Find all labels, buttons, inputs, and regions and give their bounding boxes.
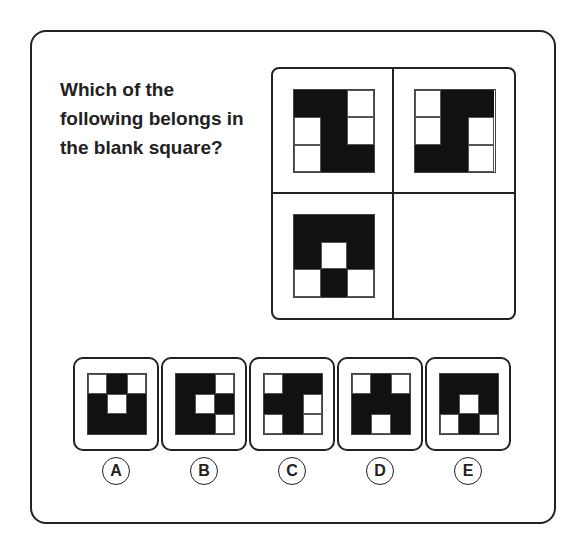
option-d-label[interactable]: D xyxy=(366,457,394,485)
empty-square xyxy=(264,374,283,394)
empty-square xyxy=(107,394,126,414)
filled-square xyxy=(441,145,468,172)
option-b-label[interactable]: B xyxy=(190,457,218,485)
empty-square xyxy=(347,90,374,117)
pattern xyxy=(414,89,496,173)
empty-square xyxy=(303,394,322,414)
pattern xyxy=(87,373,147,435)
filled-square xyxy=(283,394,302,414)
empty-square xyxy=(215,374,234,394)
filled-square xyxy=(294,90,321,117)
option-e[interactable] xyxy=(425,357,511,451)
empty-square xyxy=(440,414,459,434)
empty-square xyxy=(294,117,321,144)
grid-cell-blank xyxy=(394,194,515,319)
empty-square xyxy=(215,414,234,434)
empty-square xyxy=(347,117,374,144)
empty-square xyxy=(294,269,321,296)
filled-square xyxy=(440,394,459,414)
empty-square xyxy=(391,374,410,394)
filled-square xyxy=(176,414,195,434)
option-d[interactable] xyxy=(337,357,423,451)
option-c-label[interactable]: C xyxy=(278,457,306,485)
empty-square xyxy=(468,145,495,172)
empty-square xyxy=(415,90,442,117)
filled-square xyxy=(479,394,498,414)
empty-square xyxy=(371,414,390,434)
filled-square xyxy=(283,414,302,434)
filled-square xyxy=(303,374,322,394)
filled-square xyxy=(321,215,348,242)
filled-square xyxy=(347,215,374,242)
filled-square xyxy=(459,374,478,394)
filled-square xyxy=(347,242,374,269)
filled-square xyxy=(321,90,348,117)
filled-square xyxy=(176,394,195,414)
filled-square xyxy=(107,414,126,434)
filled-square xyxy=(347,145,374,172)
filled-square xyxy=(127,414,146,434)
empty-square xyxy=(415,117,442,144)
filled-square xyxy=(321,269,348,296)
filled-square xyxy=(459,414,478,434)
empty-square xyxy=(321,242,348,269)
filled-square xyxy=(264,394,283,414)
option-b[interactable] xyxy=(161,357,247,451)
filled-square xyxy=(441,117,468,144)
puzzle-grid xyxy=(271,67,516,320)
filled-square xyxy=(294,242,321,269)
filled-square xyxy=(440,374,459,394)
filled-square xyxy=(195,374,214,394)
filled-square xyxy=(88,394,107,414)
empty-square xyxy=(294,145,321,172)
filled-square xyxy=(321,117,348,144)
empty-square xyxy=(88,374,107,394)
grid-cell-bottom-left xyxy=(273,194,394,319)
filled-square xyxy=(176,374,195,394)
empty-square xyxy=(347,269,374,296)
filled-square xyxy=(371,374,390,394)
filled-square xyxy=(479,374,498,394)
filled-square xyxy=(352,394,371,414)
pattern xyxy=(263,373,323,435)
empty-square xyxy=(303,414,322,434)
pattern xyxy=(293,89,375,173)
filled-square xyxy=(294,215,321,242)
option-e-label[interactable]: E xyxy=(454,457,482,485)
filled-square xyxy=(468,90,495,117)
option-a[interactable] xyxy=(73,357,159,451)
pattern xyxy=(293,214,375,298)
option-a-label[interactable]: A xyxy=(102,457,130,485)
filled-square xyxy=(195,414,214,434)
option-c[interactable] xyxy=(249,357,335,451)
filled-square xyxy=(283,374,302,394)
empty-square xyxy=(352,374,371,394)
empty-square xyxy=(127,374,146,394)
grid-cell-top-left xyxy=(273,69,394,194)
filled-square xyxy=(352,414,371,434)
empty-square xyxy=(459,394,478,414)
pattern xyxy=(439,373,499,435)
filled-square xyxy=(88,414,107,434)
filled-square xyxy=(215,394,234,414)
empty-square xyxy=(195,394,214,414)
pattern xyxy=(351,373,411,435)
filled-square xyxy=(441,90,468,117)
pattern xyxy=(175,373,235,435)
filled-square xyxy=(415,145,442,172)
filled-square xyxy=(321,145,348,172)
empty-square xyxy=(479,414,498,434)
filled-square xyxy=(371,394,390,414)
filled-square xyxy=(391,414,410,434)
filled-square xyxy=(107,374,126,394)
filled-square xyxy=(391,394,410,414)
question-text: Which of the following belongs in the bl… xyxy=(60,75,260,162)
empty-square xyxy=(468,117,495,144)
filled-square xyxy=(127,394,146,414)
empty-square xyxy=(264,414,283,434)
grid-cell-top-right xyxy=(394,69,515,194)
